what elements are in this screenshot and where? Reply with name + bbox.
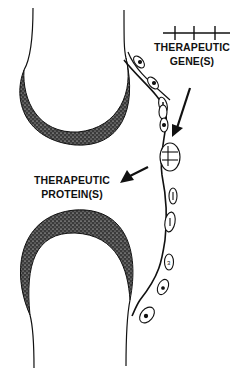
transfected-cell — [160, 143, 180, 171]
upper-bone — [20, 8, 130, 145]
gene-arrow-icon — [172, 88, 190, 137]
therapeutic-gene-label: THERAPEUTIC GENE(S) — [142, 40, 242, 68]
lower-bone — [20, 210, 132, 368]
gene-label-line2: GENE(S) — [142, 54, 242, 68]
therapeutic-protein-label: THERAPEUTIC PROTEIN(S) — [22, 173, 122, 201]
protein-label-line1: THERAPEUTIC — [22, 173, 122, 187]
lower-cartilage — [20, 210, 132, 315]
gene-symbol-icon — [163, 26, 230, 40]
gene-label-line1: THERAPEUTIC — [142, 40, 242, 54]
protein-arrow-icon — [120, 167, 148, 183]
upper-cartilage — [20, 58, 130, 145]
protein-label-line2: PROTEIN(S) — [22, 187, 122, 201]
